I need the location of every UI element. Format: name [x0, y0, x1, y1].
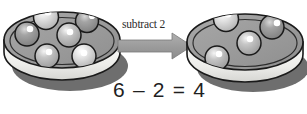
ball [237, 31, 261, 55]
arrow-label: subtract 2 [122, 18, 165, 30]
ball-highlight [247, 36, 254, 43]
ball [35, 44, 59, 68]
ball-highlight [67, 29, 74, 36]
ball [214, 7, 239, 32]
ball-highlight [46, 49, 53, 56]
ball [260, 15, 284, 39]
subtract-arrow [118, 33, 192, 59]
ball-highlight [216, 51, 223, 58]
left-plate [4, 5, 128, 92]
subtraction-illustration: subtract 2 [0, 0, 307, 114]
ball-highlight [225, 11, 232, 18]
ball-highlight [274, 20, 281, 27]
ball-highlight [81, 50, 88, 57]
ball [34, 5, 59, 30]
equation-text: 6 – 2 = 4 [113, 78, 206, 101]
ball [15, 22, 39, 46]
ball [57, 23, 81, 47]
ball-highlight [27, 26, 34, 33]
illustration-canvas: subtract 2 [0, 0, 307, 114]
arrow-shape [118, 33, 192, 59]
